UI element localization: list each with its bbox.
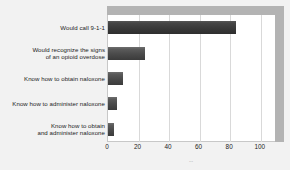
category-label: Would call 9-1-1: [3, 24, 105, 31]
bar: [108, 47, 145, 60]
category-label-line: Would recognize the signs: [3, 46, 105, 53]
bar: [108, 21, 236, 34]
category-label: Know how to administer naloxone: [3, 100, 105, 107]
category-label-line: Know how to administer naloxone: [3, 100, 105, 107]
gridline: [261, 15, 262, 142]
category-label-line: Know how to obtain naloxone: [3, 75, 105, 82]
x-tick-label: 20: [134, 143, 141, 150]
x-tick-label: 40: [165, 143, 172, 150]
bar: [108, 72, 123, 85]
category-label: Know how to obtain naloxone: [3, 75, 105, 82]
category-label: Know how to obtainand administer naloxon…: [3, 122, 105, 136]
plot-frame: [107, 6, 284, 142]
category-label-line: and administer naloxone: [3, 129, 105, 136]
x-tick-label: 60: [195, 143, 202, 150]
category-label-column: Would call 9-1-1Would recognize the sign…: [2, 22, 108, 140]
category-label: Would recognize the signsof an opioid ov…: [3, 46, 105, 60]
bar-chart: Would call 9-1-1Would recognize the sign…: [0, 0, 290, 170]
x-tick-label: 100: [254, 143, 265, 150]
category-label-line: of an opioid overdose: [3, 53, 105, 60]
x-axis-tick-labels: 020406080100: [107, 143, 284, 155]
x-tick-label: 0: [105, 143, 109, 150]
plot-wall-top: [107, 6, 284, 15]
axis-footer-mark: ...: [107, 157, 275, 163]
plot-wall-right: [275, 6, 284, 142]
x-tick-label: 80: [226, 143, 233, 150]
category-label-line: Would call 9-1-1: [3, 24, 105, 31]
bar: [108, 123, 114, 136]
category-label-line: Know how to obtain: [3, 122, 105, 129]
plot-area: [107, 15, 275, 142]
bar: [108, 97, 117, 110]
